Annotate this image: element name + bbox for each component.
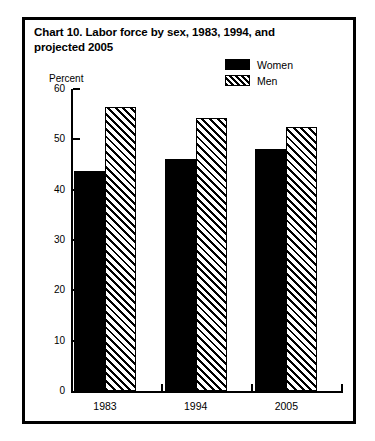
x-axis-separator-tick [161, 384, 163, 391]
y-tick-mark [73, 138, 80, 140]
x-axis-label-1994: 1994 [161, 400, 231, 412]
plot-area: 0102030405060 198319942005 [25, 20, 359, 427]
bar-women-2005 [255, 149, 286, 391]
y-tick-label: 60 [39, 84, 65, 94]
y-tick-label: 30 [39, 235, 65, 245]
y-tick-mark [73, 88, 80, 90]
x-axis-label-2005: 2005 [251, 400, 321, 412]
bar-men-2005 [286, 127, 317, 391]
y-tick-label: 50 [39, 134, 65, 144]
x-axis-separator-tick [251, 384, 253, 391]
y-tick-label: 40 [39, 185, 65, 195]
y-axis-line [71, 89, 73, 393]
bar-women-1994 [165, 159, 196, 391]
bar-men-1994 [196, 118, 227, 391]
y-tick-label: 0 [39, 386, 65, 396]
x-axis-label-1983: 1983 [70, 400, 140, 412]
bar-men-1983 [105, 107, 136, 391]
bar-women-1983 [74, 171, 105, 391]
y-tick-label: 20 [39, 285, 65, 295]
x-axis-line [71, 391, 343, 393]
y-tick-label: 10 [39, 336, 65, 346]
x-axis-end-tick [341, 384, 343, 391]
chart-frame: Chart 10. Labor force by sex, 1983, 1994… [22, 17, 356, 424]
